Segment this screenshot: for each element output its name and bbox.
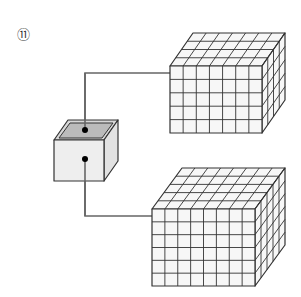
diagram-svg bbox=[0, 0, 301, 297]
diagram-canvas: ⑪ bbox=[0, 0, 301, 297]
connector-dot-inner bbox=[82, 127, 88, 133]
upper-cube-front bbox=[170, 66, 262, 133]
small-box-front bbox=[54, 140, 104, 181]
connector-dot-front bbox=[82, 156, 88, 162]
